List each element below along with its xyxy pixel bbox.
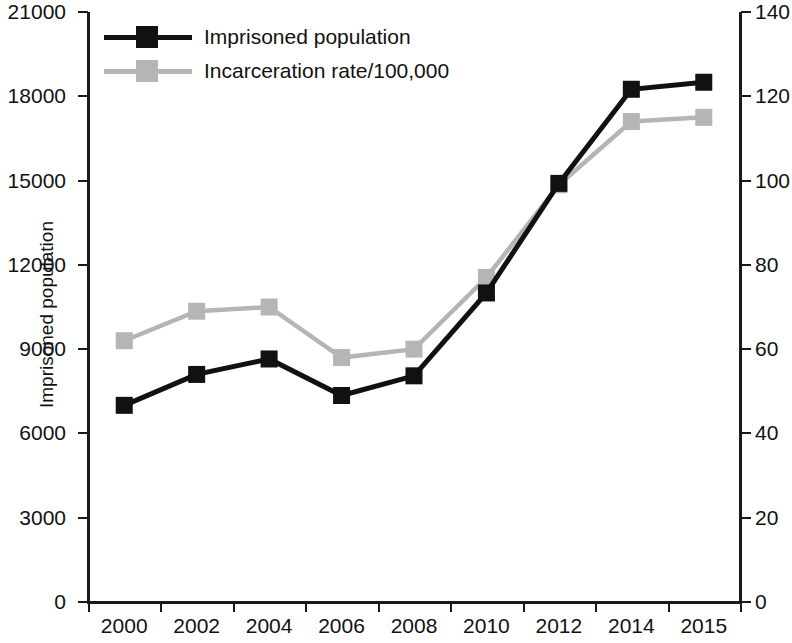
data-point-marker: [116, 332, 133, 349]
data-point-marker: [261, 350, 278, 367]
legend-label: Imprisoned population: [204, 22, 411, 52]
data-point-marker: [188, 303, 205, 320]
legend-item-incarceration-rate: Incarceration rate/100,000: [104, 56, 474, 90]
legend-color-swatch: [104, 35, 192, 40]
data-point-marker: [188, 366, 205, 383]
data-point-marker: [478, 284, 495, 301]
data-point-marker: [261, 299, 278, 316]
data-point-marker: [406, 367, 423, 384]
data-point-marker: [623, 113, 640, 130]
data-point-marker: [406, 341, 423, 358]
data-point-marker: [695, 74, 712, 91]
series-imprisoned-population: [116, 74, 713, 414]
line-chart: Imprisoned population 030006000900012000…: [0, 0, 792, 643]
data-point-marker: [333, 349, 350, 366]
series-layer: [0, 0, 792, 643]
data-point-marker: [116, 397, 133, 414]
legend-marker-icon: [136, 26, 158, 48]
series-incarceration-rate: [116, 109, 713, 366]
legend-label: Incarceration rate/100,000: [204, 56, 449, 86]
data-point-marker: [550, 175, 567, 192]
legend-marker-icon: [136, 60, 158, 82]
legend-item-imprisoned-population: Imprisoned population: [104, 22, 474, 56]
data-point-marker: [695, 109, 712, 126]
data-point-marker: [623, 81, 640, 98]
series-line: [124, 117, 704, 357]
data-point-marker: [333, 387, 350, 404]
legend: Imprisoned population Incarceration rate…: [104, 22, 474, 90]
legend-color-swatch: [104, 69, 192, 74]
